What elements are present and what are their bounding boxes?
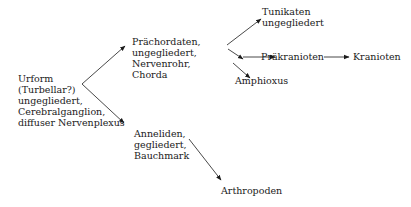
node-text: ungegliedert xyxy=(262,17,324,28)
node-text: Anneliden, xyxy=(134,128,189,139)
node-text: gegliedert, xyxy=(134,139,189,150)
node-text: Kranioten xyxy=(353,51,401,62)
node-text: ungegliedert, xyxy=(132,47,201,58)
node-text: Chorda xyxy=(132,69,201,80)
phylogeny-diagram: Urform (Turbellar?) ungegliedert, Cerebr… xyxy=(0,0,411,207)
arrow-anneliden-to-arthropoden xyxy=(189,139,221,180)
node-text: Urform xyxy=(18,73,125,84)
node-text: Amphioxus xyxy=(235,75,288,86)
node-text: Cerebralganglion, xyxy=(18,106,125,117)
node-amphioxus: Amphioxus xyxy=(235,75,288,86)
node-text: Bauchmark xyxy=(134,150,189,161)
node-kranioten: Kranioten xyxy=(353,51,401,62)
node-arthropoden: Arthropoden xyxy=(221,185,282,196)
node-praekranioten: Präkranioten xyxy=(261,51,324,62)
node-urform: Urform (Turbellar?) ungegliedert, Cerebr… xyxy=(18,73,125,128)
node-text: diffuser Nervenplexus xyxy=(18,117,125,128)
node-text: (Turbellar?) xyxy=(18,84,125,95)
node-text: Nervenrohr, xyxy=(132,58,201,69)
arrow-praechordaten-split xyxy=(228,49,243,59)
node-anneliden: Anneliden, gegliedert, Bauchmark xyxy=(134,128,189,161)
node-text: ungegliedert, xyxy=(18,95,125,106)
node-text: Prächordaten, xyxy=(132,36,201,47)
node-text: Tunikaten xyxy=(262,6,324,17)
node-tunikaten: Tunikaten ungegliedert xyxy=(231,6,324,28)
node-text: Arthropoden xyxy=(221,185,282,196)
node-text: Präkranioten xyxy=(261,51,324,62)
node-praechordaten: Prächordaten, ungegliedert, Nervenrohr, … xyxy=(132,36,201,80)
